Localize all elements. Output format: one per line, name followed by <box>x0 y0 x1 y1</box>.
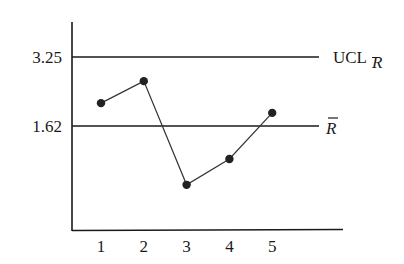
y-tick-label: 3.25 <box>32 48 62 67</box>
x-tick-label: 5 <box>268 237 277 256</box>
x-tick-label: 2 <box>140 237 149 256</box>
control-chart: 3.251.62 12345 UCLRR <box>0 0 404 264</box>
x-tick-labels: 12345 <box>97 237 277 256</box>
data-point <box>140 77 148 85</box>
x-tick-label: 3 <box>182 237 191 256</box>
ucl-label: UCL <box>333 48 367 67</box>
x-tick-label: 4 <box>225 237 234 256</box>
data-point <box>225 155 233 163</box>
rbar-label: R <box>325 119 337 138</box>
ucl-subscript: R <box>371 53 383 72</box>
data-series <box>97 77 277 189</box>
series-line <box>101 81 272 185</box>
reference-line-labels: UCLRR <box>325 48 383 138</box>
reference-lines <box>72 57 319 126</box>
x-tick-label: 1 <box>97 237 106 256</box>
y-tick-label: 1.62 <box>32 117 62 136</box>
data-point <box>97 99 105 107</box>
data-point <box>182 181 190 189</box>
data-point <box>268 109 276 117</box>
y-tick-labels: 3.251.62 <box>32 48 62 136</box>
x-axis <box>72 230 343 231</box>
